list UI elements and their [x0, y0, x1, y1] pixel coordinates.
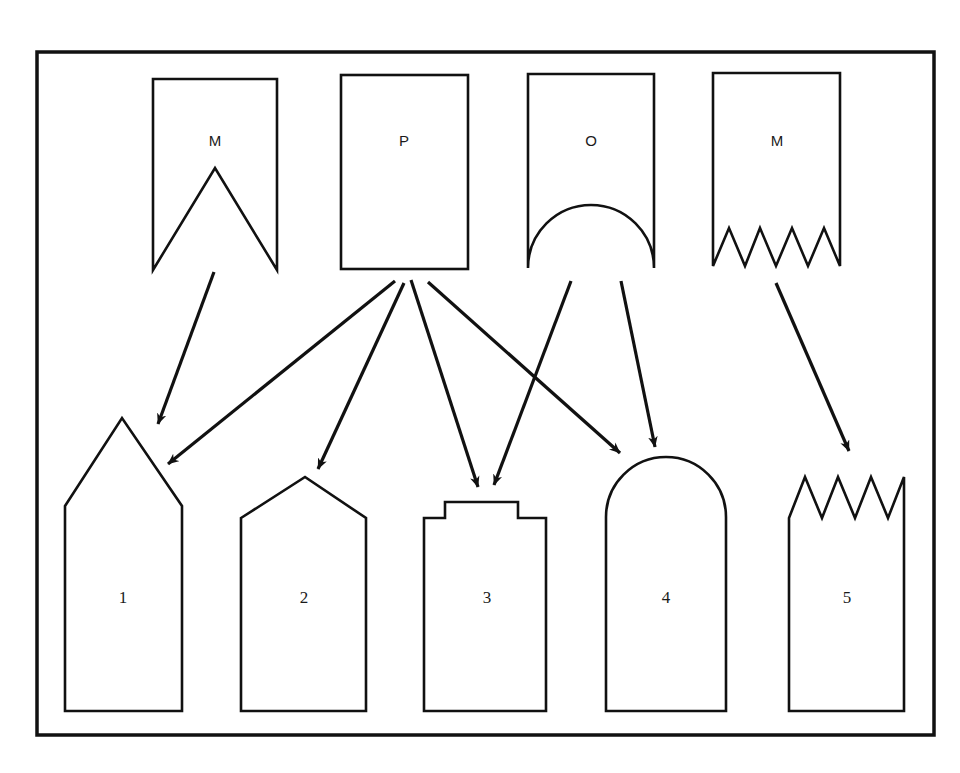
bottom-shape-2: 2	[241, 477, 366, 711]
bottom-shape-1: 1	[65, 418, 182, 711]
arrow-o-to-3	[494, 281, 571, 485]
bottom-shape-5: 5	[789, 477, 904, 711]
bottom-shape-label-5: 5	[843, 588, 852, 607]
bottom-shape-label-4: 4	[662, 588, 671, 607]
arrow-layer	[158, 272, 849, 487]
shape-outline	[528, 74, 654, 268]
bottom-shape-label-1: 1	[119, 588, 128, 607]
top-shape-p-rect: P	[341, 75, 468, 269]
shape-outline	[153, 79, 277, 270]
diagram-canvas: M P O M	[0, 0, 960, 773]
arrow-m2-to-5	[776, 283, 849, 451]
figure-root: M P O M	[0, 0, 960, 773]
arrow-p-to-3	[411, 280, 478, 487]
arrow-p-to-4	[428, 282, 620, 453]
bottom-shape-3: 3	[424, 502, 546, 711]
top-shape-label-m1: M	[209, 132, 222, 149]
top-shape-m-notch: M	[153, 79, 277, 270]
top-shape-o-arch: O	[528, 74, 654, 268]
arrow-p-to-2	[318, 283, 404, 469]
top-shape-label-o: O	[585, 132, 597, 149]
shape-outline	[606, 457, 726, 711]
shape-outline	[341, 75, 468, 269]
arrow-m1-to-1	[158, 272, 214, 424]
top-shape-label-p: P	[399, 132, 409, 149]
bottom-shape-4: 4	[606, 457, 726, 711]
top-shape-label-m2: M	[771, 132, 784, 149]
shape-outline	[713, 73, 840, 266]
shape-outline	[65, 418, 182, 711]
bottom-shape-label-2: 2	[300, 588, 309, 607]
arrow-o-to-4	[621, 281, 655, 447]
bottom-shape-label-3: 3	[483, 588, 492, 607]
top-shape-m-zigzag: M	[713, 73, 840, 266]
caption-text-fragment	[0, 418, 26, 728]
